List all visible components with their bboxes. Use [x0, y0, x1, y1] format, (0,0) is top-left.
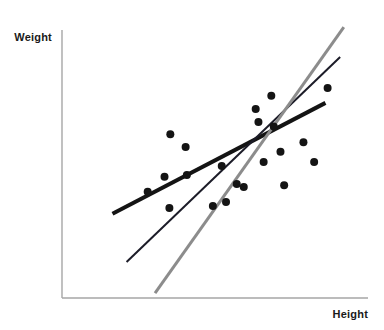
scatter-point	[183, 171, 191, 179]
scatter-point	[254, 118, 262, 126]
scatter-point	[209, 202, 217, 210]
scatter-point	[276, 148, 284, 156]
scatter-point	[182, 143, 190, 151]
scatter-plot-svg: Weight Height	[0, 0, 384, 330]
scatter-point	[240, 183, 248, 191]
scatter-point	[252, 105, 260, 113]
scatter-point	[161, 173, 169, 181]
scatter-point	[144, 188, 152, 196]
scatter-point	[166, 130, 174, 138]
scatter-point	[165, 204, 173, 212]
scatter-point	[280, 181, 288, 189]
scatter-point	[260, 158, 268, 166]
scatter-point	[267, 92, 275, 100]
scatter-point	[324, 84, 332, 92]
scatter-point	[310, 158, 318, 166]
chart-figure: Weight Height	[0, 0, 384, 330]
y-axis-label: Weight	[14, 31, 52, 43]
scatter-point	[222, 198, 230, 206]
x-axis-label: Height	[333, 308, 369, 320]
scatter-point	[270, 122, 278, 130]
scatter-point	[233, 180, 241, 188]
scatter-point	[218, 162, 226, 170]
scatter-point	[299, 138, 307, 146]
